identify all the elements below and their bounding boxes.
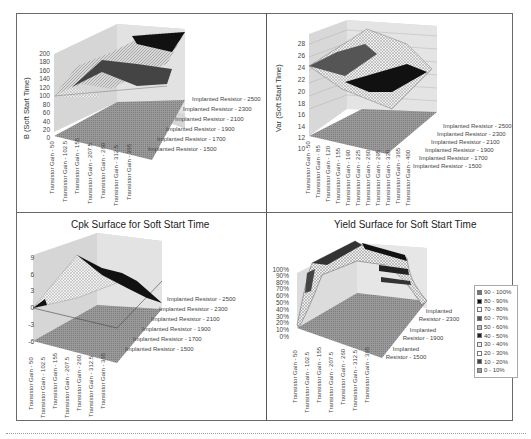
legend-item: 60 - 70% (477, 314, 515, 323)
x-tick: Transistor Gain - 155 (335, 148, 341, 204)
z-tick: 40% (269, 306, 289, 313)
legend-label: 70 - 80% (484, 305, 508, 314)
legend-item: 10 - 20% (477, 358, 515, 367)
z-tick: 20% (269, 319, 289, 326)
z-tick: 40 (30, 118, 50, 125)
x-tick: Transistor Gain - 330 (385, 150, 391, 206)
z-tick: 160 (30, 67, 50, 74)
y-tick: Implanted Resistor - 2500 (167, 296, 236, 302)
y-tick: Implanted Resistor - 2300 (183, 106, 252, 112)
x-tick: Transistor Gain - 102.5 (304, 352, 310, 413)
z-tick: 180 (30, 58, 50, 65)
z-tick: 50% (269, 299, 289, 306)
z-tick: -3 (14, 321, 34, 328)
z-tick: 200 (30, 50, 50, 57)
z-tick: 20 (285, 88, 305, 95)
x-tick: Transistor Gain - 190 (345, 150, 351, 206)
legend-swatch-icon (477, 307, 482, 312)
yield-legend: 90 - 100% 80 - 90% 70 - 80% 60 - 70% 50 … (474, 285, 518, 378)
x-tick: Transistor Gain - 50 (305, 141, 311, 194)
x-tick: Transistor Gain - 260 (365, 150, 371, 206)
legend-swatch-icon (477, 316, 482, 321)
legend-item: 30 - 40% (477, 340, 515, 349)
y-tick: Implanted Resistor - 2100 (151, 316, 220, 322)
z-tick: 26 (285, 52, 305, 59)
y-tick: Implanted Resistor - 2300 (417, 307, 461, 323)
y-tick: Implanted Resistor - 1900 (166, 126, 235, 132)
x-tick: Transistor Gain - 207.5 (328, 352, 334, 413)
x-tick: Transistor Gain - 102.5 (62, 141, 68, 202)
z-tick: 12 (285, 134, 305, 141)
z-tick: 3 (14, 287, 34, 294)
z-tick: 0% (269, 333, 289, 340)
y-tick: Implanted Resistor - 1500 (413, 163, 482, 169)
legend-label: 60 - 70% (484, 314, 508, 323)
legend-swatch-icon (477, 342, 482, 347)
legend-label: 0 - 10% (484, 366, 505, 375)
legend-item: 50 - 60% (477, 323, 515, 332)
z-axis-label: Var (Soft Start Time) (274, 64, 283, 132)
z-tick: 0 (14, 304, 34, 311)
z-tick: 28 (285, 40, 305, 47)
legend-swatch-icon (477, 351, 482, 356)
z-tick: 0 (30, 134, 50, 141)
z-tick: 70% (269, 285, 289, 292)
y-tick: Implanted Resistor - 2500 (192, 96, 261, 102)
legend-swatch-icon (477, 368, 482, 373)
dotted-rule (6, 433, 526, 434)
z-tick: 24 (285, 64, 305, 71)
z-tick: 80 (30, 101, 50, 108)
z-tick: 6 (14, 271, 34, 278)
x-tick: Transistor Gain - 50 (49, 141, 55, 194)
z-tick: 140 (30, 75, 50, 82)
z-tick: 60% (269, 292, 289, 299)
z-tick: 22 (285, 76, 305, 83)
x-tick: Transistor Gain - 120 (325, 146, 331, 202)
x-tick: Transistor Gain - 50 (28, 357, 34, 410)
x-tick: Transistor Gain - 312.5 (88, 356, 94, 417)
y-tick: Implanted Resistor - 1900 (401, 326, 445, 342)
legend-label: 40 - 50% (484, 332, 508, 341)
x-tick: Transistor Gain - 155 (52, 353, 58, 409)
legend-label: 90 - 100% (484, 288, 511, 297)
y-tick: Implanted Resistor - 1500 (125, 346, 194, 352)
legend-item: 70 - 80% (477, 305, 515, 314)
legend-swatch-icon (477, 290, 482, 295)
x-tick: Transistor Gain - 400 (405, 150, 411, 206)
x-tick: Transistor Gain - 155 (74, 138, 80, 194)
x-tick: Transistor Gain - 155 (316, 347, 322, 403)
x-tick: Transistor Gain - 260 (76, 355, 82, 411)
y-tick: Implanted Resistor - 1900 (425, 147, 494, 153)
x-tick: Transistor Gain - 207.5 (64, 357, 70, 418)
legend-item: 0 - 10% (477, 366, 515, 375)
z-tick: 14 (285, 123, 305, 130)
z-tick: 9 (14, 254, 34, 261)
x-tick: Transistor Gain - 102.5 (40, 357, 46, 418)
y-tick: Implanted Resistor - 2100 (175, 116, 244, 122)
x-tick: Transistor Gain - 295 (375, 150, 381, 206)
x-tick: Transistor Gain - 50 (292, 350, 298, 403)
var-surface-chart: Var (Soft Start Time) 28 26 24 22 20 18 … (267, 14, 513, 211)
z-tick: 20 (30, 126, 50, 133)
y-tick: Implanted Resistor - 2500 (443, 123, 512, 129)
b-surface-chart: B (Soft Start Time) 200 180 160 140 120 … (17, 14, 265, 211)
legend-swatch-icon (477, 359, 482, 364)
x-tick: Transistor Gain - 312.5 (352, 350, 358, 411)
x-tick: Transistor Gain - 85 (315, 145, 321, 198)
legend-swatch-icon (477, 325, 482, 330)
legend-label: 80 - 90% (484, 297, 508, 306)
x-tick: Transistor Gain - 207.5 (87, 143, 93, 204)
legend-label: 10 - 20% (484, 358, 508, 367)
y-tick: Implanted Resistor - 1700 (419, 155, 488, 161)
z-tick: 100 (30, 92, 50, 99)
x-tick: Transistor Gain - 365 (395, 148, 401, 204)
y-tick: Implanted Resistor - 1900 (142, 326, 211, 332)
legend-swatch-icon (477, 333, 482, 338)
y-tick: Implanted Resistor - 2300 (159, 306, 228, 312)
legend-label: 20 - 30% (484, 349, 508, 358)
legend-item: 20 - 30% (477, 349, 515, 358)
x-tick: Transistor Gain - 260 (340, 349, 346, 405)
x-tick: Transistor Gain - 225 (355, 150, 361, 206)
y-tick: Implanted Resistor - 2100 (431, 139, 500, 145)
legend-label: 50 - 60% (484, 323, 508, 332)
